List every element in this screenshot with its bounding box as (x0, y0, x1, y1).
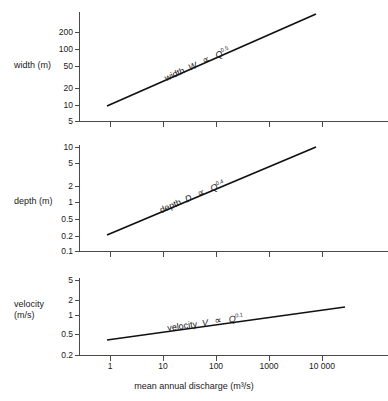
velocity-eq-operator: ∝ (212, 314, 224, 326)
x-axis-tick-label: 100 (193, 362, 239, 371)
x-axis-title: mean annual discharge (m³/s) (0, 381, 388, 391)
x-axis-tick-label: 1 (87, 362, 133, 371)
velocity-trend-line (0, 265, 388, 360)
x-axis-tick-label: 1000 (246, 362, 292, 371)
velocity-eq-exponent: 0.1 (235, 311, 243, 318)
x-axis-tick-label: 10 (140, 362, 186, 371)
velocity-eq-symbol: V (201, 317, 208, 328)
depth-eq-exponent: 0.4 (215, 178, 224, 186)
x-axis-tick-label: 10 000 (299, 362, 345, 371)
width-eq-exponent: 0.5 (220, 45, 229, 54)
